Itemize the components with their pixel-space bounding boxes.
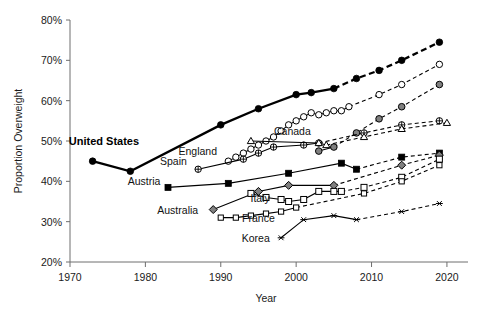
data-point-marker: [346, 104, 352, 110]
x-axis-title: Year: [255, 292, 277, 304]
data-point-marker: [308, 89, 315, 96]
data-point-marker: [286, 199, 292, 205]
data-point-marker: [240, 150, 246, 156]
data-point-marker: [338, 160, 344, 166]
data-point-marker: [399, 179, 404, 184]
data-point-marker: [398, 81, 404, 87]
series-label-spain: Spain: [160, 155, 187, 167]
series-line-projected: [341, 159, 439, 191]
series-label-australia: Australia: [157, 204, 198, 216]
data-point-marker: [308, 110, 314, 116]
series-line-projected: [334, 155, 440, 185]
x-axis-tick-label: 2000: [284, 271, 308, 283]
series-korea: [278, 201, 443, 240]
y-axis-tick-label: 30%: [41, 216, 62, 228]
data-point-marker: [353, 75, 360, 82]
series-label-canada: Canada: [274, 125, 311, 137]
data-point-marker: [301, 196, 307, 202]
data-point-marker: [294, 205, 299, 210]
series-label-france: France: [242, 212, 275, 224]
data-point-marker: [436, 156, 442, 162]
data-point-marker: [127, 168, 134, 175]
series-line-projected: [319, 121, 440, 143]
data-point-marker: [331, 144, 338, 151]
series-united-states: [89, 39, 442, 175]
data-point-marker: [338, 188, 344, 194]
series-line-projected: [334, 42, 440, 88]
x-axis-tick-label: 1990: [209, 271, 233, 283]
data-point-marker: [323, 110, 329, 116]
data-point-marker: [376, 91, 382, 97]
data-point-marker: [293, 118, 299, 124]
y-axis-tick-label: 70%: [41, 54, 62, 66]
data-point-marker: [361, 191, 366, 196]
data-point-marker: [437, 163, 442, 168]
series-label-austria: Austria: [128, 175, 161, 187]
data-point-marker: [300, 114, 306, 120]
data-point-marker: [398, 103, 405, 110]
data-point-marker: [255, 105, 262, 112]
data-point-marker: [331, 188, 337, 194]
data-point-marker: [278, 196, 284, 202]
data-point-marker: [209, 206, 217, 214]
overweight-proportion-chart: 20%30%40%50%60%70%80%1970198019902000201…: [0, 0, 480, 318]
series-line-projected: [334, 85, 440, 148]
series-line-projected: [356, 204, 439, 220]
x-axis-tick-label: 1970: [58, 271, 82, 283]
x-axis-tick-label: 1980: [134, 271, 158, 283]
data-point-marker: [286, 170, 292, 176]
x-axis-tick-label: 2020: [435, 271, 459, 283]
data-point-marker: [316, 112, 322, 118]
series-line-projected: [326, 123, 447, 145]
data-point-marker: [165, 184, 171, 190]
data-point-marker: [285, 181, 293, 189]
data-point-marker: [399, 154, 405, 160]
y-axis-tick-label: 80%: [41, 14, 62, 26]
data-point-marker: [217, 122, 224, 129]
y-axis-tick-label: 40%: [41, 175, 62, 187]
y-axis-title: Proportion Overweight: [12, 89, 24, 194]
data-point-marker: [398, 57, 405, 64]
chart-canvas: 20%30%40%50%60%70%80%1970198019902000201…: [0, 0, 480, 318]
series-line-projected: [296, 165, 439, 207]
series-label-united-states: United States: [69, 135, 139, 147]
data-point-marker: [353, 166, 359, 172]
y-axis-tick-label: 50%: [41, 135, 62, 147]
data-point-marker: [316, 188, 322, 194]
data-point-marker: [315, 148, 322, 155]
data-point-marker: [331, 108, 337, 114]
data-point-marker: [361, 184, 367, 190]
data-point-marker: [338, 108, 344, 114]
data-point-marker: [233, 154, 239, 160]
data-point-marker: [225, 180, 231, 186]
data-point-marker: [443, 119, 450, 125]
series-label-korea: Korea: [242, 232, 270, 244]
data-point-marker: [248, 146, 254, 152]
data-point-marker: [436, 61, 442, 67]
data-point-marker: [218, 215, 223, 220]
data-point-marker: [436, 39, 443, 46]
x-axis-tick-label: 2010: [360, 271, 384, 283]
data-point-marker: [293, 91, 300, 98]
data-point-marker: [331, 85, 338, 92]
y-axis-tick-label: 20%: [41, 256, 62, 268]
data-point-marker: [436, 81, 443, 88]
data-point-marker: [233, 215, 238, 220]
data-point-marker: [398, 161, 406, 169]
series-line-observed: [281, 216, 356, 238]
data-point-marker: [376, 116, 383, 123]
data-point-marker: [89, 158, 96, 165]
data-point-marker: [247, 137, 254, 143]
data-point-marker: [278, 209, 283, 214]
data-point-marker: [376, 67, 383, 74]
series-label-italy: Italy: [251, 192, 271, 204]
y-axis-tick-label: 60%: [41, 95, 62, 107]
series-line-projected: [349, 64, 439, 106]
data-point-marker: [255, 142, 261, 148]
